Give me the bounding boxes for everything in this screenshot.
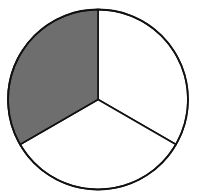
pie-chart-svg	[0, 0, 208, 195]
pie-chart	[0, 0, 208, 195]
